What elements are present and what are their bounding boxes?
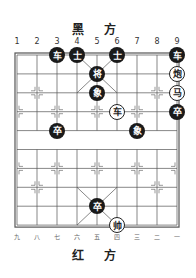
red-piece[interactable]: 马 [169,85,185,101]
black-piece[interactable]: 象 [129,123,145,139]
black-piece[interactable]: 士 [109,47,125,63]
red-piece[interactable]: 车 [109,104,125,120]
black-piece[interactable]: 卒 [169,104,185,120]
black-piece[interactable]: 卒 [89,198,105,214]
black-piece[interactable]: 车 [49,47,65,63]
black-piece[interactable]: 象 [89,85,105,101]
black-piece[interactable]: 车 [169,47,185,63]
black-piece[interactable]: 卒 [49,123,65,139]
xiangqi-board [0,0,196,278]
black-piece[interactable]: 士 [69,47,85,63]
red-piece[interactable]: 帅 [109,217,125,233]
black-piece[interactable]: 将 [89,66,105,82]
red-piece[interactable]: 炮 [169,66,185,82]
